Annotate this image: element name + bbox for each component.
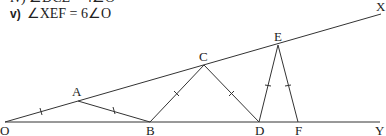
- label-E: E: [274, 29, 282, 44]
- label-X: X: [376, 0, 386, 14]
- segment-DE: [259, 45, 278, 122]
- segment-EF: [278, 45, 298, 122]
- label-D: D: [255, 123, 264, 136]
- label-Y: Y: [375, 123, 385, 136]
- ray-OX: [5, 14, 381, 122]
- label-B: B: [146, 123, 155, 136]
- label-O: O: [0, 123, 9, 136]
- geometry-diagram: O A B C D E F X Y: [0, 0, 386, 136]
- label-C: C: [199, 49, 208, 64]
- label-A: A: [72, 84, 82, 99]
- label-F: F: [295, 123, 302, 136]
